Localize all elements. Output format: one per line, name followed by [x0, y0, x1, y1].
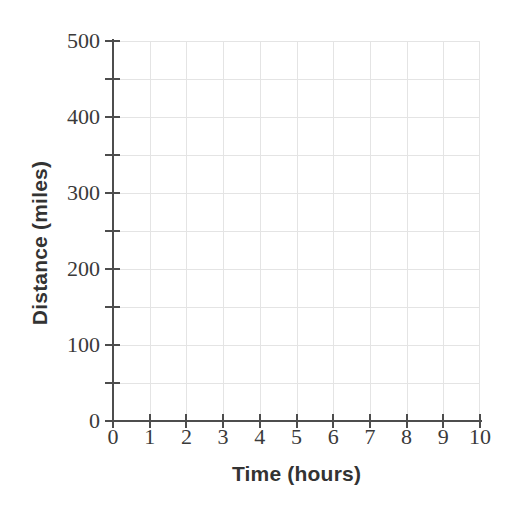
- gridline-vertical-3: [223, 41, 224, 421]
- y-tick-200: [105, 268, 120, 270]
- y-tick-400: [105, 116, 120, 118]
- x-axis-title: Time (hours): [113, 462, 480, 486]
- gridline-vertical-8: [407, 41, 408, 421]
- blank-distance-time-graph: 500 400 300 200 100 0 0 1 2 3 4 5 6 7 8 …: [0, 0, 515, 526]
- y-tick-500: [105, 40, 120, 42]
- y-tick-150: [105, 306, 120, 308]
- gridline-vertical-4: [260, 41, 261, 421]
- y-tick-250: [105, 230, 120, 232]
- gridline-vertical-5: [297, 41, 298, 421]
- y-tick-350: [105, 154, 120, 156]
- gridline-vertical-7: [370, 41, 371, 421]
- gridline-vertical-1: [150, 41, 151, 421]
- gridline-vertical-2: [186, 41, 187, 421]
- y-tick-450: [105, 78, 120, 80]
- y-tick-label-500: 500: [40, 30, 100, 52]
- y-tick-50: [105, 382, 120, 384]
- y-tick-300: [105, 192, 120, 194]
- x-tick-label-10: 10: [457, 426, 503, 448]
- gridline-vertical-10: [479, 41, 480, 421]
- y-axis-title: Distance (miles): [28, 53, 52, 433]
- gridline-vertical-6: [333, 41, 334, 421]
- y-tick-100: [105, 344, 120, 346]
- gridline-vertical-9: [443, 41, 444, 421]
- plot-area[interactable]: [113, 41, 480, 421]
